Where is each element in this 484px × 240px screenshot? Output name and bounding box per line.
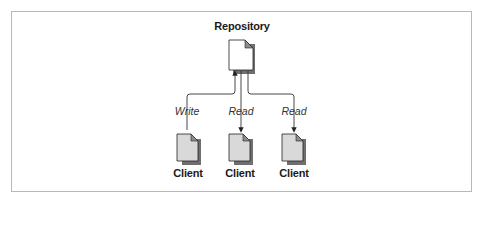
edge-label-write: Write	[175, 105, 200, 117]
client-document-icon-2	[229, 134, 253, 165]
edge-label-read-1: Read	[228, 105, 253, 117]
figure-caption-clipped	[12, 199, 312, 203]
client-label-2: Client	[225, 167, 254, 179]
client-document-icon-3	[282, 134, 306, 165]
repository-document-icon	[229, 40, 255, 74]
client-label-1: Client	[173, 167, 202, 179]
edge-label-read-2: Read	[281, 105, 306, 117]
client-label-3: Client	[279, 167, 308, 179]
write-connector	[187, 73, 235, 130]
read-connector-right	[248, 71, 294, 130]
repository-label: Repository	[214, 20, 269, 32]
connection-lines	[187, 71, 294, 130]
client-document-icon-1	[177, 134, 201, 165]
